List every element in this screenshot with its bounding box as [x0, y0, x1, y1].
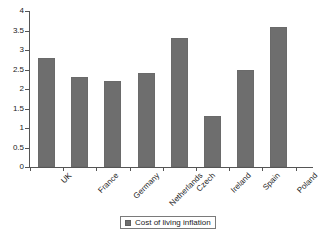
- x-axis-label-spain: Spain: [261, 171, 282, 192]
- y-axis-tick: [25, 148, 29, 149]
- x-axis-label-germany: Germany: [132, 171, 162, 201]
- y-axis-line: [29, 11, 30, 168]
- y-axis-tick-label: 4: [0, 7, 24, 15]
- y-axis-tick-label: 3: [0, 46, 24, 54]
- y-axis-tick-label: 3.5: [0, 27, 24, 35]
- bar-poland: [270, 27, 287, 167]
- legend-label: Cost of living inflation: [135, 218, 211, 227]
- x-axis-line: [29, 167, 313, 168]
- y-axis-tick-label: 1.5: [0, 105, 24, 113]
- x-axis-tick: [63, 168, 64, 171]
- bar-czech: [171, 38, 188, 167]
- y-axis-tick-label: 0: [0, 163, 24, 171]
- y-axis-tick: [25, 89, 29, 90]
- bar-germany: [104, 81, 121, 167]
- bar-ireland: [204, 116, 221, 167]
- y-axis-tick: [25, 70, 29, 71]
- chart-legend: Cost of living inflation: [120, 216, 216, 229]
- bar-netherlands: [138, 73, 155, 167]
- y-axis-tick-label: 0.5: [0, 144, 24, 152]
- y-axis-tick: [25, 11, 29, 12]
- x-axis-tick: [30, 168, 31, 171]
- x-axis-label-ireland: Ireland: [229, 171, 253, 195]
- bar-uk: [38, 58, 55, 167]
- y-axis-tick-label: 2.5: [0, 66, 24, 74]
- plot-area: 00.511.522.533.54 UKFranceGermanyNetherl…: [0, 0, 323, 180]
- x-axis-label-uk: UK: [59, 171, 73, 185]
- legend-swatch-icon: [125, 220, 131, 226]
- y-axis-tick: [25, 50, 29, 51]
- y-axis-tick: [25, 128, 29, 129]
- y-axis-tick: [25, 31, 29, 32]
- bar-chart: 00.511.522.533.54 UKFranceGermanyNetherl…: [0, 0, 323, 238]
- x-axis-tick: [130, 168, 131, 171]
- x-axis-tick: [163, 168, 164, 171]
- x-axis-label-poland: Poland: [295, 171, 319, 195]
- y-axis-tick-label: 2: [0, 85, 24, 93]
- x-axis-tick: [262, 168, 263, 171]
- x-axis-tick: [229, 168, 230, 171]
- x-axis-tick: [296, 168, 297, 171]
- y-axis-tick: [25, 167, 29, 168]
- x-axis-label-france: France: [96, 171, 120, 195]
- x-axis-tick: [96, 168, 97, 171]
- y-axis-tick: [25, 109, 29, 110]
- bar-spain: [237, 70, 254, 168]
- bar-france: [71, 77, 88, 167]
- y-axis-tick-label: 1: [0, 124, 24, 132]
